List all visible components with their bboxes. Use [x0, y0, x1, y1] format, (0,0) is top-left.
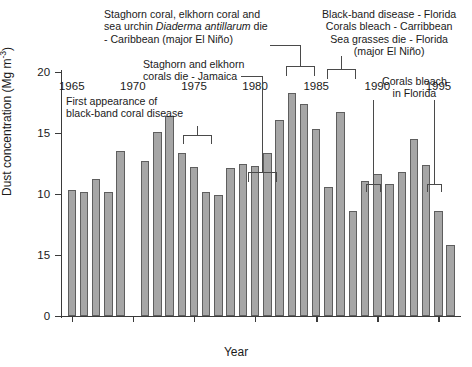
bar: [178, 153, 187, 316]
y-axis-tick-label: 20: [37, 66, 50, 78]
bracket-blackband: [327, 69, 356, 79]
dust-concentration-chart: Dust concentration (Mg m-3) Year 0151015…: [0, 0, 472, 367]
annotation-staghorn-caribbean-line2: sea urchin Diaderma antillarum die: [104, 20, 268, 32]
x-axis-tick-label: 1985: [303, 80, 329, 92]
bracket-caribbean: [286, 66, 315, 76]
leader-blackband-vertical: [341, 56, 342, 70]
bar: [349, 211, 358, 316]
leader-florida-vertical-2: [434, 100, 435, 185]
x-axis-tick: [72, 316, 73, 322]
x-axis-tick-label: 1970: [120, 80, 146, 92]
y-axis-title: Dust concentration (Mg m-3): [0, 47, 14, 196]
bar: [202, 192, 211, 316]
bar: [165, 116, 174, 316]
leader-jamaica-horizontal: [241, 76, 263, 77]
y-axis-tick-label: 10: [37, 188, 50, 200]
bar: [116, 151, 125, 316]
annotation-staghorn-jamaica: Staghorn and elkhorn corals die - Jamaic…: [143, 58, 244, 83]
leader-caribbean-horizontal: [270, 45, 301, 46]
bar: [226, 168, 235, 316]
bar: [385, 184, 394, 316]
leader-first-appearance: [197, 126, 198, 136]
bar: [288, 93, 297, 316]
bar: [398, 172, 407, 316]
leader-florida-vertical: [373, 100, 374, 185]
bar: [80, 192, 89, 316]
bar: [446, 245, 455, 316]
x-axis-tick-label: 1980: [242, 80, 268, 92]
bar: [373, 174, 382, 316]
bracket-florida: [366, 184, 381, 192]
annotation-staghorn-caribbean: Staghorn coral, elkhorn coral and sea ur…: [104, 8, 268, 45]
bar: [361, 181, 370, 316]
y-axis-tick: [55, 194, 62, 195]
x-axis-tick: [255, 316, 256, 322]
bar: [104, 192, 113, 316]
bar: [275, 120, 284, 316]
x-axis-tick: [194, 316, 195, 322]
leader-caribbean-vertical: [300, 45, 301, 67]
y-axis-tick-label: 15: [37, 127, 50, 139]
bar: [239, 164, 248, 317]
y-axis-tick: [55, 255, 62, 256]
y-axis-tick: [55, 133, 62, 134]
bar: [153, 132, 162, 316]
leader-jamaica-vertical: [262, 76, 263, 173]
x-axis-tick: [316, 316, 317, 322]
bar: [190, 167, 199, 316]
bar: [141, 161, 150, 316]
x-axis-tick: [133, 316, 134, 322]
bracket-first-appearance: [183, 135, 212, 144]
annotation-first-appearance: First appearance of black-band coral dis…: [66, 95, 183, 120]
y-axis-tick: [55, 72, 62, 73]
bar: [92, 179, 101, 316]
x-axis-tick: [438, 316, 439, 322]
bar: [68, 190, 77, 316]
bracket-jamaica: [248, 172, 277, 182]
annotation-corals-bleach-florida: Corals bleach in Florida: [382, 75, 447, 100]
y-axis-tick-label: 15: [37, 249, 50, 261]
y-axis-exponent: -3: [0, 51, 8, 59]
bar: [434, 211, 443, 316]
x-axis-tick-label: 1965: [59, 80, 85, 92]
bar: [324, 187, 333, 316]
bar: [410, 139, 419, 316]
bar: [214, 195, 223, 316]
bar: [251, 166, 260, 316]
y-axis-tick-label: 0: [44, 310, 50, 322]
x-axis-title: Year: [0, 345, 472, 359]
x-axis-tick: [377, 316, 378, 322]
y-axis-tick: [55, 316, 62, 317]
annotation-blackband-florida: Black-band disease - Florida Corals blea…: [322, 8, 456, 58]
bar: [300, 104, 309, 316]
bar: [312, 129, 321, 316]
bar: [336, 112, 345, 316]
bracket-florida-2: [427, 184, 442, 192]
